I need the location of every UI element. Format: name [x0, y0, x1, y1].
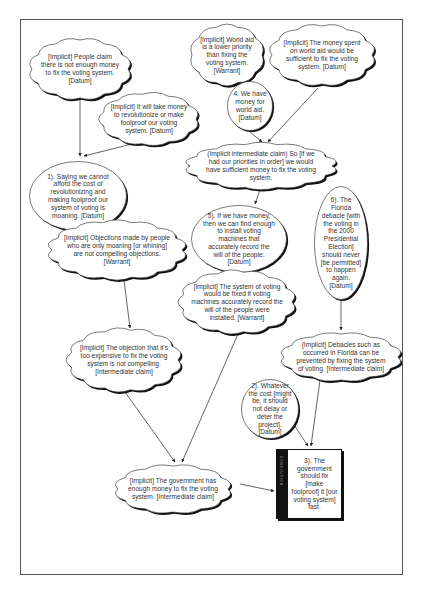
node-text: [Implicit] The money spent on world aid … [270, 39, 374, 70]
node-cloud-n12: [Implicit] The objection that it's too e… [68, 328, 180, 392]
node-ellipse-n14: 2). Whatever the cost [might be, it shou… [240, 378, 300, 440]
node-text: 3). The government should fix [make fool… [277, 457, 341, 512]
edge-arrow [311, 380, 320, 446]
node-text: [Implicit] Debacles such as occurred in … [282, 341, 400, 372]
edge-arrow [268, 88, 318, 142]
node-text: [Implicit] World aid is a lower priority… [190, 36, 264, 75]
node-cloud-n1: [Implicit] People claim there is not eno… [30, 38, 130, 100]
node-text: [Implicit] People claim there is not eno… [30, 53, 130, 84]
node-cloud-n5: [Implicit] It will take money to revolut… [100, 92, 198, 146]
edge-arrow [240, 484, 274, 491]
node-ellipse-n9: 6). The Florida debacle [with the voting… [313, 185, 369, 301]
node-text: 5). If we have money, then we can find e… [190, 212, 288, 267]
node-text: (Implicit intermediate claim) So [if we … [188, 150, 334, 181]
node-cloud-n13: [Implicit] Debacles such as occurred in … [282, 332, 400, 382]
node-cloud-n3: [Implicit] The money spent on world aid … [270, 24, 374, 86]
node-cloud-n2: [Implicit] World aid is a lower priority… [190, 24, 264, 86]
node-cloud-n10: [Implicit] Objections made by people who… [50, 220, 184, 280]
edge-arrow [125, 392, 175, 462]
edge-arrow [124, 280, 130, 328]
node-text: [Implicit] The system of voting would be… [180, 283, 294, 322]
node-text: 2). Whatever the cost [might be, it shou… [240, 382, 300, 437]
edge-arrow [182, 334, 238, 462]
node-claim-box-n16: CONCLUSION3). The government should fix … [276, 449, 342, 519]
node-text: 6). The Florida debacle [with the voting… [313, 196, 369, 290]
node-ellipse-n4: 4. We have money for world aid. [Datum] [226, 80, 274, 132]
node-cloud-n15: [Implicit] The government has enough mon… [116, 464, 230, 514]
edge-arrow [255, 190, 260, 204]
edge-arrow [250, 132, 262, 142]
node-ellipse-n8: 5). If we have money, then we can find e… [190, 204, 288, 274]
node-cloud-n6: (Implicit intermediate claim) So [if we … [188, 142, 334, 190]
node-text: 4. We have money for world aid. [Datum] [226, 90, 274, 121]
node-text: [Implicit] It will take money to revolut… [100, 103, 198, 134]
node-text: 1). Saying we cannot afford the cost of … [28, 173, 128, 220]
node-text: [Implicit] The objection that it's too e… [68, 344, 180, 375]
node-cloud-n11: [Implicit] The system of voting would be… [180, 270, 294, 334]
node-text: [Implicit] Objections made by people who… [50, 234, 184, 265]
node-text: [Implicit] The government has enough mon… [116, 477, 230, 500]
